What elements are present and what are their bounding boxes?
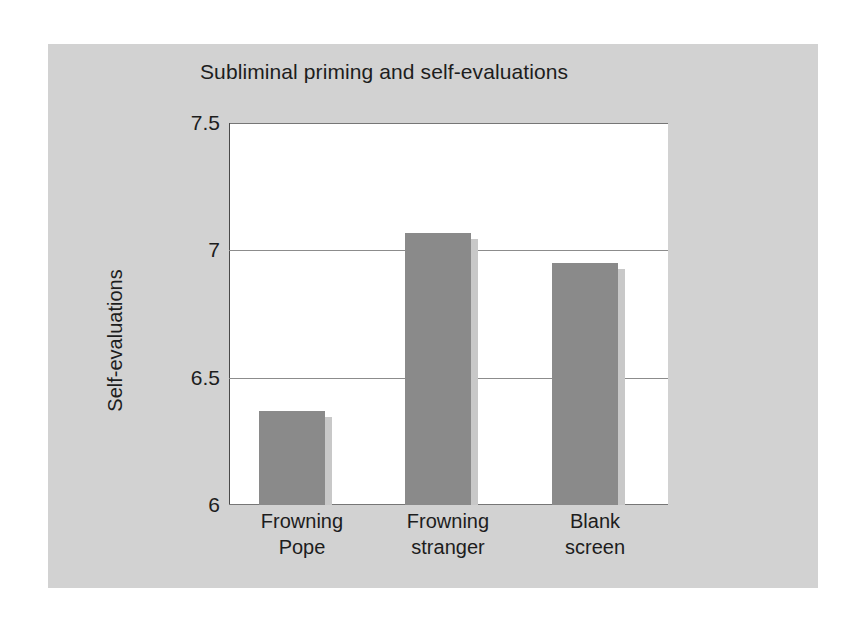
- y-tick-label: 6.5: [191, 366, 220, 390]
- bar: [552, 263, 618, 505]
- x-tick-label: Frowningstranger: [375, 508, 521, 560]
- y-tick-label: 7.5: [191, 111, 220, 135]
- y-tick-label: 7: [208, 238, 220, 262]
- x-tick-label: FrowningPope: [229, 508, 375, 560]
- x-tick-label-line: Pope: [229, 534, 375, 560]
- x-tick-label-line: Blank: [570, 510, 620, 532]
- x-tick-label-line: Frowning: [261, 510, 343, 532]
- x-axis-tick-labels: FrowningPopeFrowningstrangerBlankscreen: [229, 508, 668, 580]
- bar: [405, 233, 471, 505]
- y-axis-line: [229, 123, 230, 505]
- plot-top-border: [229, 123, 668, 124]
- bar-shadow: [471, 239, 478, 505]
- chart-title: Subliminal priming and self-evaluations: [200, 60, 568, 84]
- plot-area: [229, 123, 668, 505]
- bar: [259, 411, 325, 505]
- x-tick-label-line: Frowning: [407, 510, 489, 532]
- y-axis-tick-labels: 7.576.56: [158, 123, 220, 505]
- bar-shadow: [325, 417, 332, 505]
- y-axis-title: Self-evaluations: [104, 231, 127, 451]
- bar-shadow: [618, 269, 625, 505]
- x-tick-label-line: stranger: [375, 534, 521, 560]
- y-tick-label: 6: [208, 493, 220, 517]
- x-tick-label: Blankscreen: [522, 508, 668, 560]
- figure-panel: Subliminal priming and self-evaluations …: [48, 44, 818, 588]
- x-tick-label-line: screen: [522, 534, 668, 560]
